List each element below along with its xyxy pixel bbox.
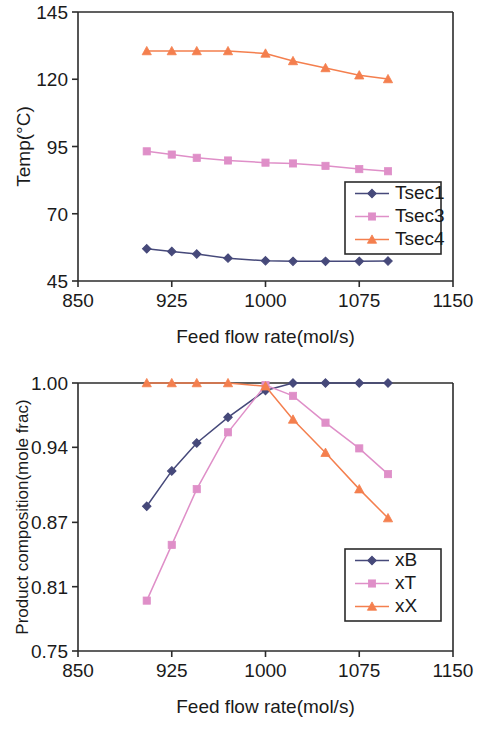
y-tick-label: 0.87 <box>31 512 68 533</box>
data-point-square <box>224 157 231 164</box>
data-point-square <box>356 445 363 452</box>
y-tick-label: 45 <box>47 271 68 292</box>
data-point-square <box>143 148 150 155</box>
legend-label-xB: xB <box>395 549 417 570</box>
x-tick-label: 850 <box>62 290 94 311</box>
data-point-square <box>368 213 375 220</box>
legend-label-Tsec1: Tsec1 <box>395 182 445 203</box>
series-Tsec3 <box>143 148 391 175</box>
y-tick-label: 120 <box>36 69 68 90</box>
data-point-square <box>289 160 296 167</box>
legend-label-Tsec3: Tsec3 <box>395 205 445 226</box>
data-point-square <box>262 159 269 166</box>
y-tick-label: 95 <box>47 137 68 158</box>
y-tick-label: 145 <box>36 2 68 23</box>
legend-label-xX: xX <box>395 595 418 616</box>
temperature-chart-svg: 457095120145850925100010751150Feed flow … <box>0 0 478 370</box>
legend-label-xT: xT <box>395 572 417 593</box>
legend: xBxTxX <box>345 549 441 621</box>
data-point-square <box>224 429 231 436</box>
y-axis-title: Temp(°C) <box>13 106 34 186</box>
x-axis-title: Feed flow rate(mol/s) <box>176 326 354 347</box>
y-axis-title: Product composition(mole frac) <box>13 399 32 634</box>
x-tick-label: 1000 <box>244 290 286 311</box>
data-point-square <box>289 392 296 399</box>
data-point-square <box>368 580 375 587</box>
data-point-square <box>143 597 150 604</box>
data-point-diamond <box>355 379 363 387</box>
data-point-diamond <box>321 379 329 387</box>
composition-chart-svg: 0.750.810.870.941.00850925100010751150Fe… <box>0 368 478 740</box>
composition-chart-panel: 0.750.810.870.941.00850925100010751150Fe… <box>0 368 478 740</box>
x-tick-label: 1075 <box>338 660 380 681</box>
series-line-xB <box>147 383 388 506</box>
x-tick-label: 1075 <box>338 290 380 311</box>
data-point-diamond <box>321 257 329 265</box>
y-tick-label: 0.81 <box>31 577 68 598</box>
x-tick-label: 925 <box>156 660 188 681</box>
data-point-diamond <box>193 250 201 258</box>
series-Tsec4 <box>142 46 392 82</box>
data-point-square <box>322 419 329 426</box>
data-point-square <box>193 486 200 493</box>
x-tick-label: 1150 <box>433 660 474 681</box>
data-point-diamond <box>261 257 269 265</box>
figure-page: 457095120145850925100010751150Feed flow … <box>0 0 478 740</box>
data-point-diamond <box>224 254 232 262</box>
y-tick-label: 70 <box>47 204 68 225</box>
y-tick-label: 1.00 <box>31 373 68 394</box>
data-point-diamond <box>384 379 392 387</box>
x-tick-label: 1150 <box>433 290 474 311</box>
legend: Tsec1Tsec3Tsec4 <box>345 182 445 254</box>
temperature-chart-panel: 457095120145850925100010751150Feed flow … <box>0 0 478 370</box>
data-point-square <box>322 162 329 169</box>
data-point-square <box>356 165 363 172</box>
data-point-diamond <box>384 257 392 265</box>
data-point-diamond <box>168 247 176 255</box>
x-tick-label: 925 <box>156 290 188 311</box>
data-point-diamond <box>289 379 297 387</box>
x-tick-label: 850 <box>62 660 94 681</box>
data-point-square <box>384 168 391 175</box>
axes-group: 457095120145850925100010751150 <box>36 2 473 311</box>
data-point-square <box>193 154 200 161</box>
legend-label-Tsec4: Tsec4 <box>395 228 445 249</box>
x-axis-title: Feed flow rate(mol/s) <box>176 696 354 717</box>
data-point-diamond <box>143 245 151 253</box>
x-tick-label: 1000 <box>244 660 286 681</box>
y-tick-label: 0.94 <box>31 437 68 458</box>
series-xX <box>142 378 392 521</box>
data-point-square <box>168 541 175 548</box>
axes-group: 0.750.810.870.941.00850925100010751150 <box>31 373 473 681</box>
data-point-square <box>168 151 175 158</box>
data-point-diamond <box>355 257 363 265</box>
data-point-diamond <box>289 257 297 265</box>
y-tick-label: 0.75 <box>31 641 68 662</box>
series-line-xX <box>147 383 388 518</box>
data-point-square <box>384 471 391 478</box>
